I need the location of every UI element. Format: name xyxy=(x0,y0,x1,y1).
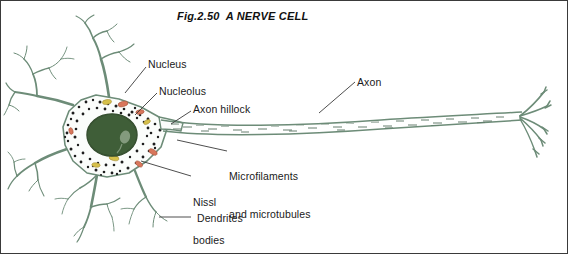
dendrite-bottom-center xyxy=(55,175,120,242)
label-microfilaments: Microfilaments and microtubules xyxy=(229,145,311,245)
leader-nissl xyxy=(141,161,191,176)
leader-microfilaments xyxy=(177,140,227,151)
label-nissl-line2: bodies xyxy=(193,234,225,247)
soma xyxy=(63,95,167,177)
axon-terminals xyxy=(520,87,551,157)
label-nissl-line1: Nissl xyxy=(193,196,225,209)
dendrite-bottom-right xyxy=(121,171,167,227)
label-microfilaments-line1: Microfilaments xyxy=(229,170,311,183)
label-axon: Axon xyxy=(357,76,381,89)
terminal-buttons xyxy=(533,87,551,157)
label-nucleus: Nucleus xyxy=(148,58,187,71)
label-dendrites: Dendrites xyxy=(197,212,243,225)
label-axon-hillock: Axon hillock xyxy=(193,103,250,116)
leader-axon xyxy=(319,82,355,113)
dendrite-left-lower xyxy=(8,149,67,196)
label-nucleolus: Nucleolus xyxy=(159,85,206,98)
dendrite-upper xyxy=(76,15,134,97)
nerve-cell-figure: Fig.2.50 A NERVE CELL xyxy=(0,0,568,254)
dendrite-left-upper xyxy=(4,46,74,115)
leader-nucleus xyxy=(125,67,146,93)
